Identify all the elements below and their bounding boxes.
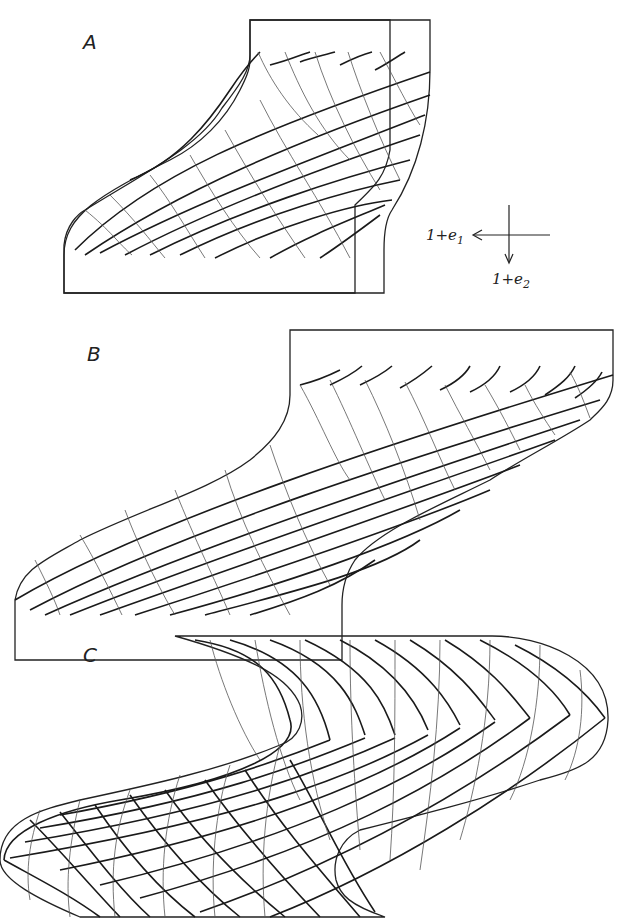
panel-b-diagram [15,330,613,660]
figure-canvas [0,0,630,920]
panel-a-diagram [64,20,430,293]
panel-c-diagram [0,636,608,917]
axes-legend-icon [473,205,550,263]
